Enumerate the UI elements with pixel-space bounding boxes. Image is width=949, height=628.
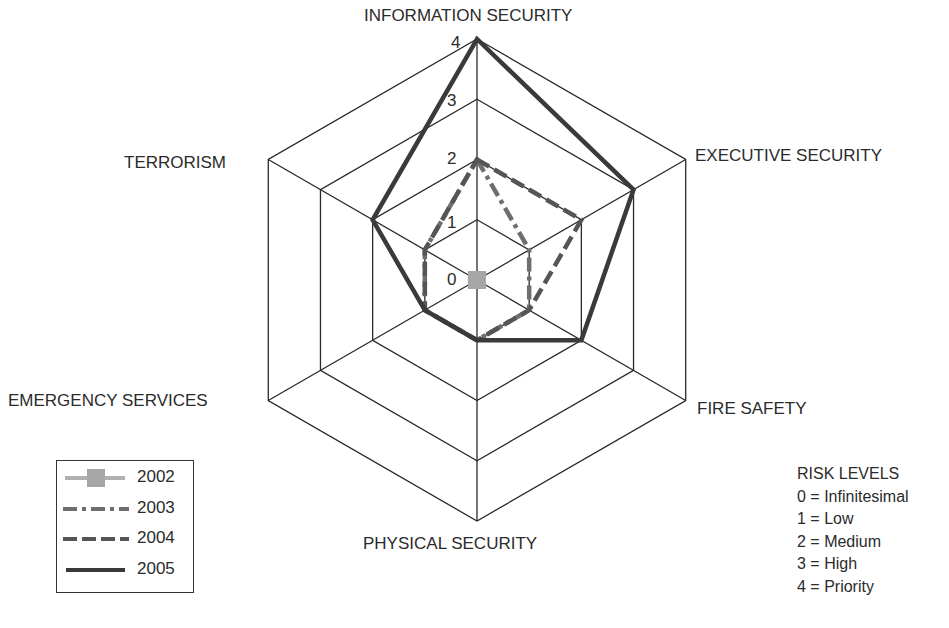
legend-item-2003: 2003: [57, 494, 193, 524]
tick-1: 1: [447, 213, 456, 233]
risk-level-4: 4 = Priority: [797, 576, 909, 599]
legend-item-2004: 2004: [57, 524, 193, 554]
axis-label-terrorism: TERRORISM: [124, 153, 226, 173]
risk-level-3: 3 = High: [797, 553, 909, 576]
series-2002-marker: [468, 271, 486, 289]
risk-level-1: 1 = Low: [797, 508, 909, 531]
legend-swatch-2003: [63, 498, 129, 520]
axis-label-executive-security: EXECUTIVE SECURITY: [695, 146, 882, 166]
tick-0: 0: [447, 270, 456, 290]
axis-label-information-security: INFORMATION SECURITY: [364, 6, 572, 26]
risk-level-2: 2 = Medium: [797, 531, 909, 554]
axis-label-emergency-services: EMERGENCY SERVICES: [8, 391, 208, 411]
series-2004-line: [425, 160, 582, 341]
legend-swatch-2002: [63, 467, 127, 489]
legend-swatch-2005: [63, 559, 129, 581]
tick-3: 3: [447, 91, 456, 111]
risk-levels-key: RISK LEVELS 0 = Infinitesimal 1 = Low 2 …: [797, 463, 909, 598]
legend-item-2005: 2005: [57, 555, 193, 585]
axis-label-fire-safety: FIRE SAFETY: [697, 399, 807, 419]
risk-level-0: 0 = Infinitesimal: [797, 486, 909, 509]
legend: 2002 2003 2004 2005: [56, 460, 194, 593]
axis-label-physical-security: PHYSICAL SECURITY: [363, 534, 537, 554]
risk-levels-title: RISK LEVELS: [797, 463, 909, 486]
legend-swatch-2004: [63, 528, 129, 550]
legend-item-2002: 2002: [57, 463, 193, 493]
tick-4: 4: [451, 33, 460, 53]
tick-2: 2: [447, 149, 456, 169]
